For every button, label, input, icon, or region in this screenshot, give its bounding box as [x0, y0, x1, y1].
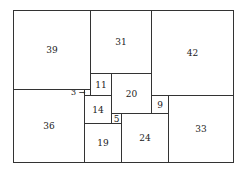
square-42: 42 — [151, 10, 234, 96]
square-33: 33 — [168, 95, 234, 163]
square-label: 39 — [46, 45, 57, 55]
square-31: 31 — [90, 10, 152, 74]
square-label: 31 — [115, 37, 126, 47]
square-39: 39 — [13, 10, 91, 90]
square-36: 36 — [13, 89, 85, 163]
square-label: 24 — [139, 133, 150, 143]
square-label: 11 — [95, 80, 106, 90]
square-24: 24 — [121, 113, 169, 163]
square-14: 14 — [84, 95, 112, 124]
square-label: 33 — [195, 124, 206, 134]
square-label: 14 — [92, 105, 103, 115]
square-20: 20 — [111, 73, 152, 114]
square-label: 9 — [157, 100, 163, 110]
square-9: 9 — [151, 95, 169, 114]
square-label: 42 — [187, 48, 198, 58]
square-label: 36 — [43, 121, 54, 131]
squared-rectangle: 3931423633 →11201451924933 — [13, 10, 233, 162]
square-label: 5 — [114, 114, 120, 124]
square-label: 19 — [97, 138, 108, 148]
square-19: 19 — [84, 123, 122, 163]
square-label: 20 — [126, 89, 137, 99]
square-11: 11 — [90, 73, 112, 96]
